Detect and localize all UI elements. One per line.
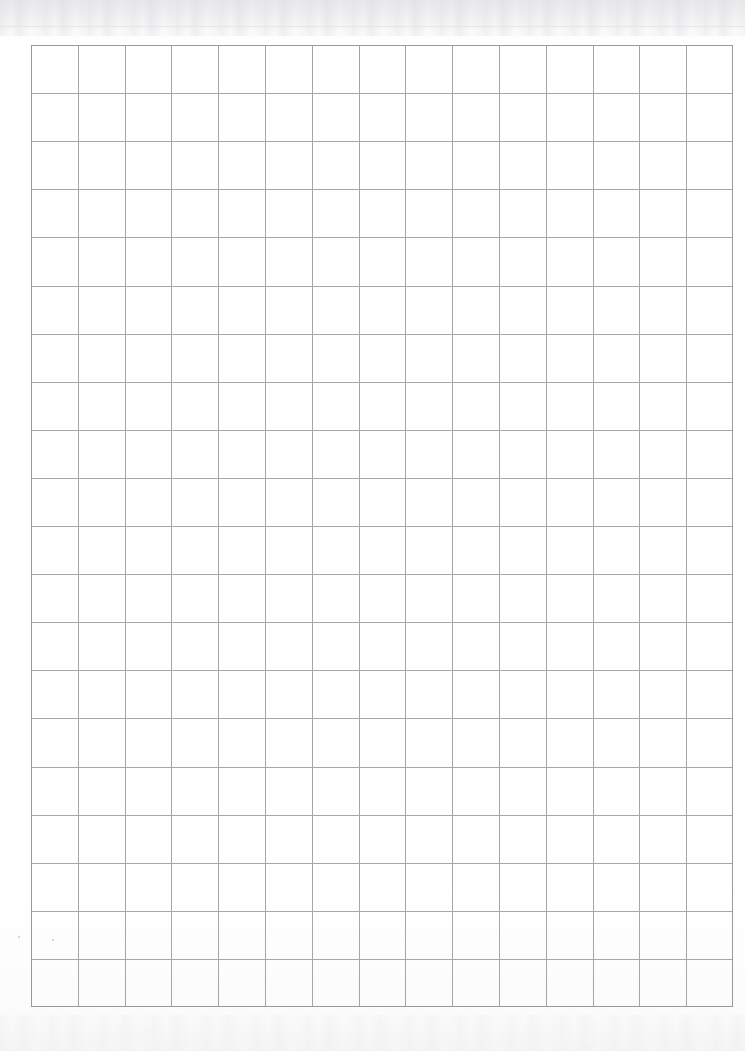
grid-row-line (31, 141, 733, 142)
grid-row-line (31, 718, 733, 719)
grid-row-line (31, 286, 733, 287)
grid-row-line (31, 189, 733, 190)
scan-artifact-bottom-band (0, 1015, 745, 1051)
grid-row-line (31, 911, 733, 912)
grid-row-line (31, 93, 733, 94)
grid-row-line (31, 526, 733, 527)
grid-row-line (31, 478, 733, 479)
grid-row-line (31, 767, 733, 768)
grid-row-line (31, 670, 733, 671)
grid-row-line (31, 574, 733, 575)
grid-row-line (31, 430, 733, 431)
scan-speck (18, 936, 20, 938)
scan-artifact-top-band (0, 0, 745, 36)
grid-row-line (31, 622, 733, 623)
grid-row-line (31, 815, 733, 816)
grid-row-line (31, 382, 733, 383)
scan-artifact-hairline (0, 26, 745, 27)
ruled-square-grid (31, 45, 733, 1007)
grid-row-line (31, 237, 733, 238)
scan-speck (52, 939, 54, 941)
grid-row-line (31, 959, 733, 960)
page-canvas (0, 0, 745, 1051)
grid-lines (31, 45, 733, 1007)
grid-row-line (31, 863, 733, 864)
grid-row-line (31, 334, 733, 335)
